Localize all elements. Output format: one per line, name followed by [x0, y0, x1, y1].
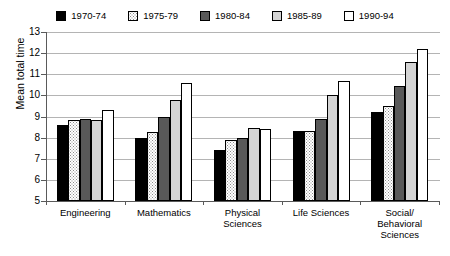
- legend-swatch-1970-74: [56, 11, 66, 21]
- x-tick-0: [46, 201, 47, 205]
- bar-Physical Sciences-1970-74: [214, 150, 225, 201]
- y-tick-label-12: 12: [0, 48, 40, 58]
- legend-label: 1985-89: [287, 11, 322, 21]
- bar-Social/ Behavioral Sciences-1970-74: [371, 112, 382, 201]
- bar-Physical Sciences-1985-89: [248, 128, 259, 201]
- bar-Engineering-1980-84: [80, 119, 91, 201]
- bar-group-Engineering: [57, 32, 114, 201]
- legend-swatch-1980-84: [200, 11, 210, 21]
- x-axis-label-line: Sciences: [360, 229, 439, 240]
- x-tick-5: [439, 201, 440, 205]
- legend-swatch-1975-79: [128, 11, 138, 21]
- x-axis-label-line: Engineering: [46, 207, 125, 218]
- legend-item-1980-84: 1980-84: [200, 11, 250, 21]
- x-axis-label-Social/ Behavioral Sciences: Social/BehavioralSciences: [360, 207, 439, 240]
- y-tick-label-8: 8: [0, 133, 40, 143]
- bar-Physical Sciences-1980-84: [237, 138, 248, 201]
- x-axis-label-Engineering: Engineering: [46, 207, 125, 218]
- legend-swatch-1990-94: [344, 11, 354, 21]
- x-axis-label-line: Physical: [203, 207, 282, 218]
- y-tick-label-11: 11: [0, 69, 40, 79]
- bar-Social/ Behavioral Sciences-1985-89: [405, 62, 416, 201]
- bar-Physical Sciences-1990-94: [260, 129, 271, 201]
- bar-Engineering-1970-74: [57, 125, 68, 201]
- legend-swatch-1985-89: [272, 11, 282, 21]
- bar-group-Mathematics: [135, 32, 192, 201]
- y-tick-label-5: 5: [0, 196, 40, 206]
- bar-Engineering-1985-89: [91, 120, 102, 201]
- bar-group-Social/ Behavioral Sciences: [371, 32, 428, 201]
- y-tick-label-9: 9: [0, 112, 40, 122]
- bar-Life Sciences-1980-84: [315, 119, 326, 201]
- bar-group-Physical Sciences: [214, 32, 271, 201]
- legend-label: 1975-79: [143, 11, 178, 21]
- x-axis-label-Physical Sciences: PhysicalSciences: [203, 207, 282, 229]
- x-tick-4: [360, 201, 361, 205]
- bar-Engineering-1990-94: [102, 110, 113, 201]
- bar-Engineering-1975-79: [68, 120, 79, 201]
- x-tick-2: [203, 201, 204, 205]
- bar-Mathematics-1970-74: [135, 138, 146, 201]
- legend-item-1990-94: 1990-94: [344, 11, 394, 21]
- x-axis-label-Life Sciences: Life Sciences: [282, 207, 361, 218]
- x-axis-label-line: Mathematics: [125, 207, 204, 218]
- y-tick-label-7: 7: [0, 154, 40, 164]
- legend-item-1975-79: 1975-79: [128, 11, 178, 21]
- y-tick-label-6: 6: [0, 175, 40, 185]
- x-axis-label-line: Behavioral: [360, 218, 439, 229]
- bar-Mathematics-1985-89: [170, 100, 181, 201]
- x-axis-label-Mathematics: Mathematics: [125, 207, 204, 218]
- bar-Social/ Behavioral Sciences-1990-94: [417, 49, 428, 201]
- bar-Mathematics-1975-79: [147, 132, 158, 201]
- x-axis-label-line: Sciences: [203, 218, 282, 229]
- bar-Mathematics-1980-84: [158, 117, 169, 202]
- legend-item-1985-89: 1985-89: [272, 11, 322, 21]
- legend-label: 1970-74: [71, 11, 106, 21]
- bar-Social/ Behavioral Sciences-1975-79: [383, 106, 394, 201]
- legend-label: 1990-94: [359, 11, 394, 21]
- bar-Life Sciences-1990-94: [338, 81, 349, 201]
- bar-chart: 1970-741975-791980-841985-891990-94 Mean…: [0, 0, 450, 256]
- x-axis-label-line: Life Sciences: [282, 207, 361, 218]
- x-tick-3: [282, 201, 283, 205]
- y-tick-label-13: 13: [0, 27, 40, 37]
- bar-Physical Sciences-1975-79: [225, 140, 236, 201]
- bar-group-Life Sciences: [293, 32, 350, 201]
- x-axis-line: [46, 201, 440, 202]
- legend-label: 1980-84: [215, 11, 250, 21]
- chart-legend: 1970-741975-791980-841985-891990-94: [0, 8, 450, 24]
- bar-Life Sciences-1970-74: [293, 131, 304, 201]
- x-axis-label-line: Social/: [360, 207, 439, 218]
- bar-Life Sciences-1975-79: [304, 131, 315, 201]
- bar-Social/ Behavioral Sciences-1980-84: [394, 86, 405, 201]
- legend-item-1970-74: 1970-74: [56, 11, 106, 21]
- x-tick-1: [125, 201, 126, 205]
- y-tick-label-10: 10: [0, 90, 40, 100]
- bar-Life Sciences-1985-89: [327, 95, 338, 201]
- bar-Mathematics-1990-94: [181, 83, 192, 201]
